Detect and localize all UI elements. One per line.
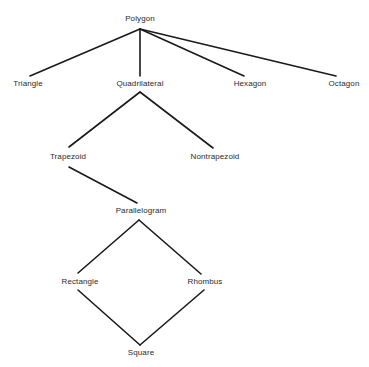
edge-parallelogram-rectangle bbox=[78, 220, 139, 273]
edge-parallelogram-rhombus bbox=[139, 220, 201, 274]
diagram-edges bbox=[0, 0, 369, 367]
node-rectangle: Rectangle bbox=[62, 278, 99, 286]
node-polygon: Polygon bbox=[125, 15, 155, 23]
edge-polygon-octagon bbox=[140, 29, 336, 76]
node-parallelogram: Parallelogram bbox=[116, 207, 167, 215]
node-trapezoid: Trapezoid bbox=[50, 153, 86, 161]
edge-polygon-triangle bbox=[30, 29, 140, 76]
node-hexagon: Hexagon bbox=[234, 80, 267, 88]
edge-rhombus-square bbox=[140, 290, 204, 345]
edge-rectangle-square bbox=[78, 290, 140, 345]
edge-quadrilateral-nontrapezoid bbox=[140, 92, 213, 148]
node-nontrapezoid: Nontrapezoid bbox=[191, 153, 240, 161]
node-rhombus: Rhombus bbox=[188, 278, 223, 286]
node-quadrilateral: Quadrilateral bbox=[116, 80, 163, 88]
edge-polygon-hexagon bbox=[140, 29, 244, 76]
node-triangle: Triangle bbox=[13, 80, 42, 88]
node-octagon: Octagon bbox=[329, 80, 360, 88]
edge-quadrilateral-trapezoid bbox=[69, 92, 140, 147]
node-square: Square bbox=[128, 349, 154, 357]
edge-trapezoid-parallelogram bbox=[69, 167, 137, 203]
